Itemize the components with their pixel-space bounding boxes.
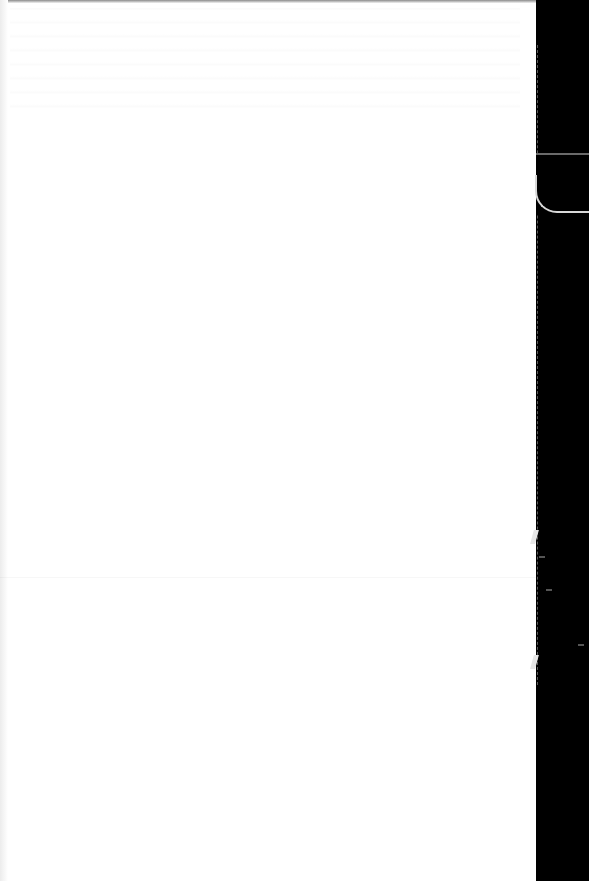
scan-canvas [0, 0, 589, 881]
page-left-shade [0, 0, 8, 881]
blank-paper-page [0, 0, 536, 881]
fold-line [0, 577, 536, 578]
dust-speck [539, 556, 545, 558]
show-through-bleed [10, 8, 520, 118]
paper-flap-curl [535, 175, 589, 213]
dust-speck [546, 589, 552, 591]
page-top-shadow [0, 0, 536, 3]
page-right-edge [531, 45, 538, 685]
dust-speck [578, 644, 584, 646]
